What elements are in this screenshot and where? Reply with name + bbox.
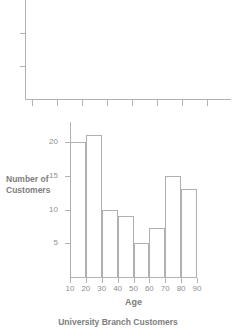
histogram-y-tick-label: 20 <box>34 138 58 146</box>
histogram-x-tick-label: 90 <box>187 285 207 293</box>
histogram-x-tick <box>86 278 87 283</box>
top-chart-x-tick <box>32 100 33 106</box>
top-chart-x-tick <box>107 100 108 106</box>
top-chart-y-tick <box>20 33 26 34</box>
y-axis-title-line-2: Customers <box>6 185 66 196</box>
empty-axes-chart <box>0 0 236 112</box>
histogram-x-tick <box>118 278 119 283</box>
top-chart-x-tick <box>82 100 83 106</box>
histogram-x-tick <box>102 278 103 283</box>
histogram-x-tick <box>197 278 198 283</box>
histogram-y-tick-label: 10 <box>34 206 58 214</box>
histogram-x-tick <box>165 278 166 283</box>
top-chart-y-axis <box>25 0 26 100</box>
histogram-bar <box>102 210 118 277</box>
histogram-bar <box>86 135 102 277</box>
histogram-x-tick <box>181 278 182 283</box>
histogram-x-tick <box>70 278 71 283</box>
top-chart-x-tick <box>207 100 208 106</box>
x-axis-title: Age <box>70 297 197 307</box>
histogram-bar <box>181 189 197 277</box>
top-chart-y-tick <box>20 66 26 67</box>
histogram-x-tick <box>149 278 150 283</box>
histogram-bar <box>134 243 150 277</box>
histogram-bar <box>70 142 86 277</box>
histogram-bar <box>165 176 181 277</box>
y-axis-title: Number of Customers <box>6 174 66 196</box>
y-axis-title-line-1: Number of <box>6 174 66 185</box>
top-chart-x-tick <box>182 100 183 106</box>
histogram-bar <box>149 228 165 277</box>
top-chart-x-tick <box>157 100 158 106</box>
histogram-y-tick-label: 5 <box>34 239 58 247</box>
top-chart-x-tick <box>132 100 133 106</box>
chart-caption: University Branch Customers <box>0 317 236 327</box>
top-chart-x-tick <box>57 100 58 106</box>
top-chart-x-axis <box>25 99 231 100</box>
histogram-chart: 5101520 102030405060708090 Number of Cus… <box>0 112 236 332</box>
histogram-x-tick <box>134 278 135 283</box>
histogram-bar <box>118 216 134 277</box>
